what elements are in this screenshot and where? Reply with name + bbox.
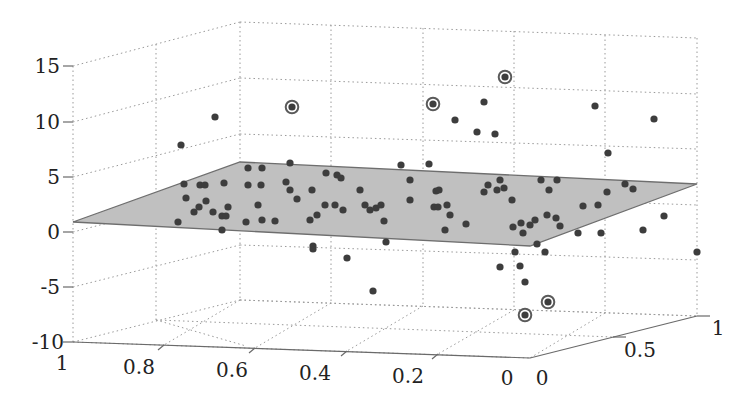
data-point [552, 214, 559, 221]
outlier-point [288, 103, 295, 110]
z-tick-neg5: -5 [41, 275, 60, 299]
data-point [397, 161, 404, 168]
data-point [484, 181, 491, 188]
z-tick-0: 0 [47, 220, 60, 244]
data-point [441, 226, 448, 233]
data-point [286, 186, 293, 193]
data-point [220, 179, 227, 186]
data-point [254, 201, 261, 208]
y-tick-1: 1 [712, 316, 725, 340]
data-point [180, 180, 187, 187]
data-point [574, 229, 581, 236]
data-point [222, 212, 229, 219]
data-point [242, 218, 249, 225]
data-point [603, 188, 610, 195]
data-point [286, 159, 293, 166]
data-point [271, 217, 278, 224]
data-point [446, 211, 453, 218]
data-point [306, 216, 313, 223]
y-tick-0: 0 [536, 366, 549, 390]
data-point [591, 102, 598, 109]
data-point [491, 130, 498, 137]
data-point [211, 113, 218, 120]
y-tick-0.5: 0.5 [624, 338, 656, 362]
data-point [258, 216, 265, 223]
data-point [553, 176, 560, 183]
data-point [545, 186, 552, 193]
data-point [500, 184, 507, 191]
scatter-3d-chart: 15 10 5 0 -5 -10 1 0.8 0.6 0.4 0.2 0 0 0… [0, 0, 744, 405]
data-point [521, 278, 528, 285]
data-point [244, 181, 251, 188]
data-point [339, 206, 346, 213]
data-point [579, 202, 586, 209]
z-axis-ticks: 15 10 5 0 -5 -10 [32, 54, 64, 354]
data-point [639, 226, 646, 233]
data-point [493, 186, 500, 193]
x-tick-0.6: 0.6 [216, 358, 248, 382]
data-point [201, 181, 208, 188]
data-point [511, 248, 518, 255]
data-point [406, 176, 413, 183]
data-point [533, 240, 540, 247]
data-point [331, 201, 338, 208]
y-axis-ticks: 0 0.5 1 [536, 316, 725, 390]
data-point [224, 203, 231, 210]
data-point [343, 254, 350, 261]
data-point [597, 229, 604, 236]
data-point [509, 223, 516, 230]
data-point [244, 164, 251, 171]
data-point [660, 212, 667, 219]
data-point [209, 208, 216, 215]
data-point [190, 208, 197, 215]
data-point [434, 203, 441, 210]
data-point [369, 287, 376, 294]
data-point [406, 196, 413, 203]
data-point [282, 178, 289, 185]
data-point [556, 222, 563, 229]
data-point [174, 218, 181, 225]
data-point [604, 149, 611, 156]
data-point [380, 217, 387, 224]
data-point [443, 201, 450, 208]
x-axis-ticks: 1 0.8 0.6 0.4 0.2 0 [56, 351, 514, 390]
data-point [309, 245, 316, 252]
data-point [293, 195, 300, 202]
data-point [693, 248, 700, 255]
x-tick-0.4: 0.4 [299, 361, 331, 385]
outlier-point [429, 100, 436, 107]
data-point [202, 197, 209, 204]
data-point [650, 115, 657, 122]
data-point [356, 186, 363, 193]
data-point [218, 226, 225, 233]
data-point [182, 194, 189, 201]
data-point [496, 176, 503, 183]
z-tick-5: 5 [47, 165, 60, 189]
data-point [473, 128, 480, 135]
outlier-point [521, 311, 528, 318]
data-point [308, 186, 315, 193]
z-tick-10: 10 [35, 110, 60, 134]
data-point [257, 181, 264, 188]
data-point [516, 262, 523, 269]
outlier-point [501, 73, 508, 80]
data-point [462, 220, 469, 227]
data-point [519, 229, 526, 236]
data-point [480, 98, 487, 105]
x-tick-1: 1 [56, 351, 69, 375]
data-point [322, 169, 329, 176]
data-point [541, 248, 548, 255]
data-point [496, 263, 503, 270]
data-point [543, 211, 550, 218]
data-point [621, 180, 628, 187]
data-point [537, 176, 544, 183]
data-point [435, 186, 442, 193]
x-tick-0.2: 0.2 [392, 364, 424, 388]
data-point [531, 216, 538, 223]
data-point [377, 201, 384, 208]
x-tick-0.8: 0.8 [123, 355, 155, 379]
data-point [451, 116, 458, 123]
data-point [629, 185, 636, 192]
z-tick-15: 15 [35, 54, 60, 78]
data-point [382, 238, 389, 245]
